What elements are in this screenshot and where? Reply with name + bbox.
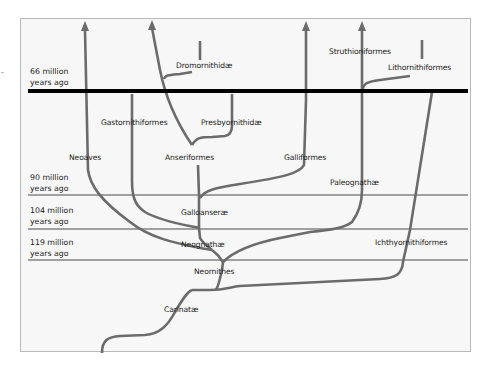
- label-galloanserae: Galloanseræ: [181, 208, 228, 218]
- time-label-104: 104 million years ago: [30, 205, 73, 227]
- label-gastornithiformes: Gastornithiformes: [101, 118, 168, 128]
- arrow-galliformes: [302, 21, 310, 31]
- time-label-line2: years ago: [30, 248, 73, 259]
- time-label-line2: years ago: [30, 216, 73, 227]
- label-neognathae: Neognathæ: [181, 240, 225, 250]
- label-galliformes: Galliformes: [284, 153, 326, 163]
- label-struthioniformes: Struthioniformes: [329, 47, 391, 57]
- label-neoaves: Neoaves: [69, 153, 101, 163]
- branch-dromornithidae: [164, 72, 192, 79]
- label-presbyornithidae: Presbyornithidæ: [201, 118, 262, 128]
- time-label-line2: years ago: [30, 183, 68, 194]
- branch-galliformes: [200, 30, 306, 198]
- label-paleognathae: Paleognathæ: [330, 178, 379, 188]
- time-label-66: 66 million years ago: [30, 66, 68, 88]
- label-carinatae: Carinatæ: [164, 305, 198, 315]
- phylogeny-svg: [0, 0, 492, 371]
- arrow-anseriformes: [148, 20, 156, 30]
- time-label-119: 119 million years ago: [30, 237, 73, 259]
- label-lithornithiformes: Lithornithiformes: [388, 63, 451, 73]
- time-label-line1: 104 million: [30, 205, 73, 216]
- time-label-line2: years ago: [30, 77, 68, 88]
- label-ichthyornithiformes: Ichthyornithiformes: [375, 238, 447, 248]
- label-anseriformes: Anseriformes: [165, 153, 214, 163]
- time-label-line1: 66 million: [30, 66, 68, 77]
- label-neornithes: Neornithes: [194, 267, 234, 277]
- time-label-line1: 119 million: [30, 237, 73, 248]
- label-dromornithidae: Dromornithidæ: [176, 61, 232, 71]
- branch-carinatae: [102, 290, 192, 353]
- time-label-line1: 90 million: [30, 172, 68, 183]
- branch-anseriformes: [198, 165, 199, 228]
- branch-paleognathae: [223, 30, 362, 262]
- arrow-struthioniformes: [358, 21, 366, 31]
- time-label-90: 90 million years ago: [30, 172, 68, 194]
- arrow-neoaves: [81, 21, 89, 31]
